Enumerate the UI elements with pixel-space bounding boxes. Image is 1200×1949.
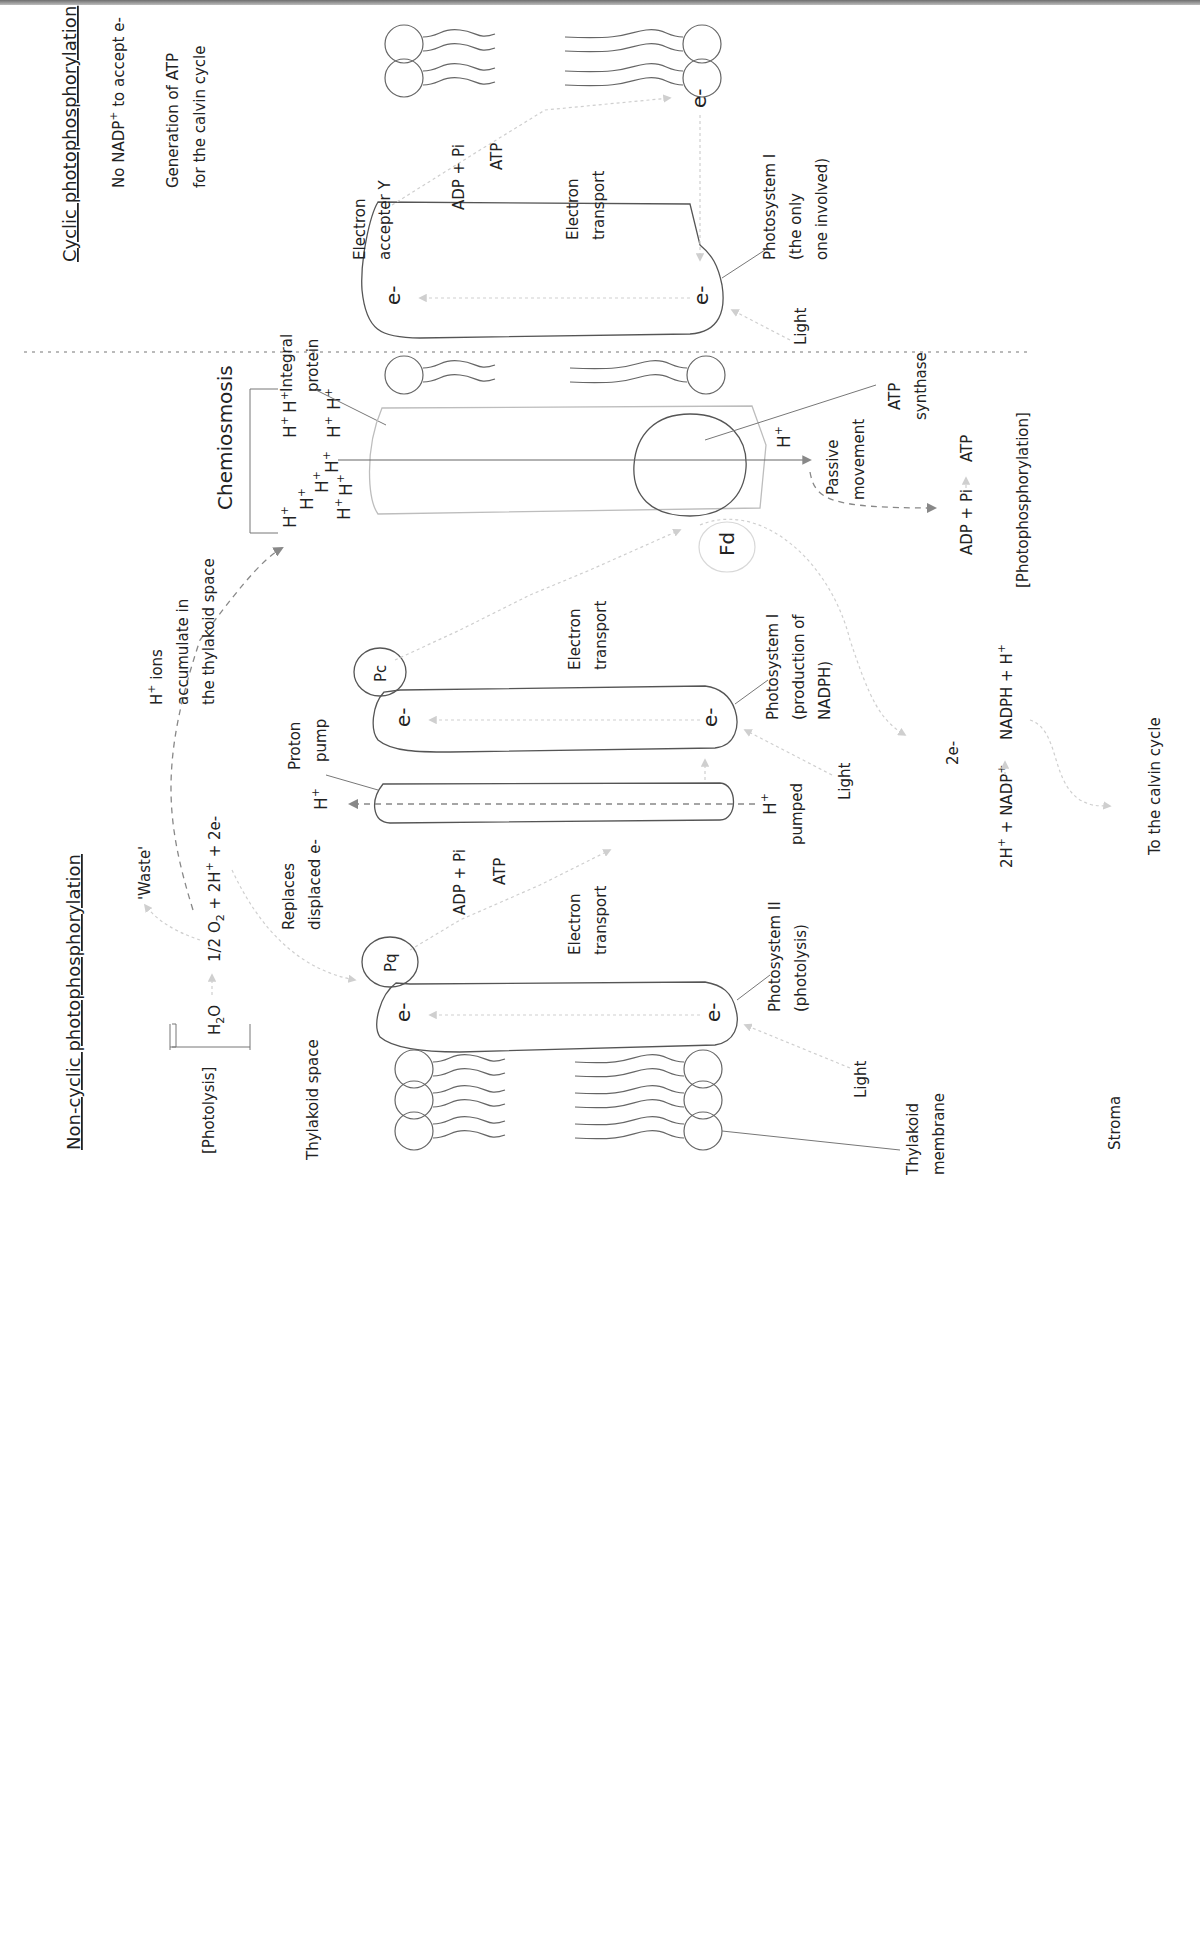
cyclic-title: Cyclic photophosphorylation — [59, 6, 80, 262]
chemiosmosis-adp-pi: ADP + Pi — [958, 489, 976, 555]
electron-transport-arrow — [392, 98, 670, 205]
lipid-bilayer-middle — [385, 356, 725, 394]
light-arrow — [732, 310, 790, 340]
light-label: Light — [836, 762, 854, 800]
photophosphorylation-diagram: Cyclic photophosphorylation No NADP+ to … — [0, 0, 1200, 1949]
svg-text:H+: H+ — [310, 471, 332, 493]
cyclic-electron-transport: Electron — [564, 178, 582, 240]
light-arrow — [745, 1025, 850, 1068]
photolysis-products: 1/2 O2 + 2H+ + 2e- — [203, 816, 227, 962]
photosystem-ii — [377, 982, 737, 1052]
h-ion-label: H+ — [309, 788, 331, 810]
psi-noncyclic-label: (production of — [790, 614, 808, 720]
thylakoid-membrane-label: membrane — [930, 1093, 948, 1175]
photosystem-i-cyclic-label: Photosystem I — [761, 154, 779, 260]
electron-transport-label: transport — [592, 886, 610, 955]
svg-text:H+: H+ — [332, 498, 354, 520]
noncyclic-adp-pi: ADP + Pi — [451, 849, 469, 915]
light-label: Light — [852, 1060, 870, 1098]
pc-label: Pc — [372, 665, 390, 682]
waste-arrow — [145, 905, 200, 940]
noncyclic-atp: ATP — [491, 858, 509, 885]
lipid-bilayer-bottom — [395, 1050, 722, 1150]
photosystem-i-noncyclic — [373, 686, 737, 752]
electron-label: e- — [391, 707, 415, 727]
photosystem-i-cyclic — [362, 202, 723, 338]
svg-text:H+: H+ — [278, 416, 300, 438]
h-ion-label: H+ — [758, 793, 780, 815]
photolysis-bracket — [172, 1024, 176, 1047]
svg-text:H+: H+ — [278, 391, 300, 413]
proton-pump-label: pump — [312, 719, 330, 762]
leader-line — [326, 775, 378, 790]
h-ion-cluster: H+ H+ H+ H+ H+ H+ H+ H+ H+ H+ — [278, 388, 356, 528]
nadph-product: NADPH + H+ — [995, 644, 1016, 740]
photosystem-i-cyclic-label: one involved) — [813, 158, 831, 260]
cyclic-note-no-nadp: No NADP+ to accept e- — [107, 17, 128, 188]
electron-label: e- — [381, 285, 405, 305]
replaces-label: displaced e- — [306, 839, 324, 930]
integral-protein-label: Integral — [278, 334, 296, 392]
psii-label: (photolysis) — [792, 924, 810, 1012]
h-ions-label: H+ ions — [145, 649, 166, 705]
atp-synthase-label: synthase — [912, 352, 930, 420]
to-calvin-arrow — [1030, 720, 1110, 806]
integral-protein-label: protein — [304, 339, 322, 392]
leader-line — [722, 250, 765, 278]
waste-label: 'Waste' — [136, 846, 154, 900]
light-arrow — [745, 730, 832, 775]
noncyclic-title: Non-cyclic photophosphorylation — [63, 854, 84, 1150]
electron-label: e- — [687, 88, 711, 108]
chemiosmosis-atp: ATP — [958, 435, 976, 462]
electron-transport-label: Electron — [566, 893, 584, 955]
electron-label: e- — [698, 707, 722, 727]
photophosphorylation-label: [Photophosphorylation] — [1014, 412, 1032, 588]
atp-synthase-label: ATP — [886, 383, 904, 410]
electron-transport-arrow — [395, 530, 680, 660]
h-ion-label: H+ — [772, 426, 794, 448]
electron-acceptor-label: accepter Y — [376, 180, 394, 260]
electron-label: e- — [689, 285, 713, 305]
replaces-label: Replaces — [280, 863, 298, 930]
cyclic-note-calvin: for the calvin cycle — [191, 46, 209, 188]
h-ions-label: accumulate in — [174, 599, 192, 705]
water-formula: H2O — [206, 1005, 227, 1035]
psi-noncyclic-label: NADPH) — [816, 661, 834, 720]
atp-synthase — [634, 414, 746, 516]
electron-acceptor-label: Electron — [351, 198, 369, 260]
two-electrons-label: 2e- — [944, 741, 962, 765]
cyclic-atp: ATP — [488, 143, 506, 170]
stroma-label: Stroma — [1106, 1096, 1124, 1150]
proton-pump — [375, 783, 734, 823]
electron-label: e- — [391, 1002, 415, 1022]
cyclic-section: Cyclic photophosphorylation No NADP+ to … — [59, 6, 831, 345]
pq-label: Pq — [382, 953, 400, 972]
cyclic-electron-transport: transport — [590, 171, 608, 240]
psi-noncyclic-label: Photosystem I — [764, 614, 782, 720]
light-label: Light — [792, 307, 810, 345]
svg-text:H+: H+ — [334, 474, 356, 496]
leader-line — [722, 1131, 900, 1150]
svg-text:H+: H+ — [322, 416, 344, 438]
chemiosmosis-section: Chemiosmosis H+ H+ H+ H+ H+ H+ H+ H+ H+ … — [213, 334, 1032, 735]
psii-label: Photosystem II — [766, 901, 784, 1012]
thylakoid-membrane-label: Thylakoid — [904, 1103, 922, 1176]
to-calvin-label: To the calvin cycle — [1146, 717, 1164, 856]
proton-pump-label: Proton — [286, 722, 304, 770]
passive-movement-label: movement — [850, 419, 868, 500]
chemiosmosis-title: Chemiosmosis — [213, 365, 237, 510]
svg-text:H+: H+ — [320, 451, 342, 473]
noncyclic-section: Non-cyclic photophosphorylation [Photoly… — [63, 530, 1164, 1176]
thylakoid-space-label: Thylakoid space — [304, 1039, 322, 1161]
electron-transport-label: Electron — [566, 608, 584, 670]
photolysis-label: [Photolysis] — [200, 1067, 218, 1154]
h-ions-label: the thylakoid space — [200, 558, 218, 705]
h-pumped-label: pumped — [788, 783, 806, 845]
lipid-bilayer-cyclic-top — [385, 25, 721, 97]
cyclic-adp-pi: ADP + Pi — [450, 144, 468, 210]
nadp-reactant: 2H+ + NADP+ — [995, 765, 1016, 868]
photosystem-i-cyclic-label: (the only — [787, 193, 805, 260]
electron-label: e- — [701, 1002, 725, 1022]
cyclic-note-generation: Generation of ATP — [164, 53, 182, 188]
fd-label: Fd — [715, 532, 739, 556]
